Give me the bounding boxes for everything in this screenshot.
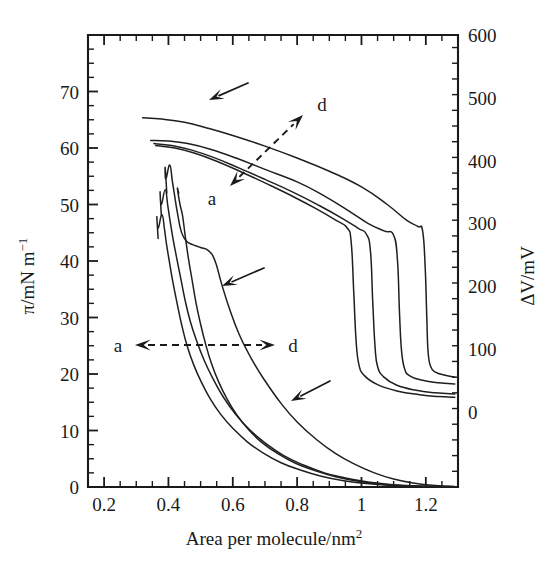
dashed-arrow-potential-shaft [239, 124, 293, 177]
y-left-tick-label: 60 [60, 138, 79, 159]
x-tick-label: 1 [357, 494, 367, 515]
annot-label-d-lower: d [288, 335, 298, 356]
chart-canvas: 0.20.40.60.811.2 010203040506070 0100200… [0, 0, 550, 574]
curve-surface-potential-cycle-3 [154, 144, 455, 394]
y-right-tick-label: 600 [468, 25, 497, 46]
curve-surface-pressure-cycle-1 [165, 165, 455, 486]
left-axis-ticks: 010203040506070 [60, 35, 98, 498]
y-right-tick-label: 300 [468, 213, 497, 234]
x-tick-label: 0.6 [221, 494, 245, 515]
arrow-pi-lower-shaft [301, 381, 330, 396]
arrow-pi-shoulder-shaft [232, 268, 264, 282]
arrow-upper-potential-shaft [219, 83, 248, 96]
y-right-tick-label: 100 [468, 339, 497, 360]
x-tick-label: 0.8 [285, 494, 309, 515]
curve-surface-potential-cycle-4 [156, 145, 455, 397]
curve-surface-potential-cycle-1 [143, 118, 455, 377]
data-curves [143, 118, 455, 487]
chart-annotations [135, 83, 330, 401]
y-right-tick-label: 200 [468, 276, 497, 297]
annot-label-a-upper: a [208, 188, 217, 209]
x-tick-label: 1.2 [414, 494, 438, 515]
curve-surface-pressure-cycle-3 [157, 215, 455, 487]
y-left-tick-label: 40 [60, 251, 79, 272]
dashed-arrow-potential-head-end [288, 115, 303, 130]
curve-surface-pressure-cycle-4 [177, 188, 454, 487]
y-right-tick-label: 500 [468, 88, 497, 109]
y-right-tick-label: 400 [468, 151, 497, 172]
y-left-tick-label: 10 [60, 421, 79, 442]
y-right-tick-label: 0 [468, 402, 478, 423]
arrow-pi-lower-head [291, 390, 307, 401]
figure-container: 0.20.40.60.811.2 010203040506070 0100200… [0, 0, 550, 574]
y-left-axis-title: π/mN m−1 [15, 238, 39, 315]
annot-label-a-lower: a [114, 335, 123, 356]
annot-label-d-upper: d [317, 94, 327, 115]
y-left-tick-label: 50 [60, 195, 79, 216]
y-left-tick-label: 20 [60, 364, 79, 385]
y-left-tick-label: 70 [60, 82, 79, 103]
y-right-axis-title: ΔV/mV [517, 246, 538, 306]
plot-frame [88, 35, 458, 487]
curve-surface-potential-cycle-2 [151, 140, 455, 384]
x-axis-ticks: 0.20.40.60.811.2 [88, 35, 458, 515]
y-left-tick-label: 0 [70, 477, 80, 498]
x-tick-label: 0.4 [157, 494, 181, 515]
x-tick-label: 0.2 [92, 494, 116, 515]
x-axis-title: Area per molecule/nm2 [186, 526, 362, 550]
y-left-tick-label: 30 [60, 308, 79, 329]
